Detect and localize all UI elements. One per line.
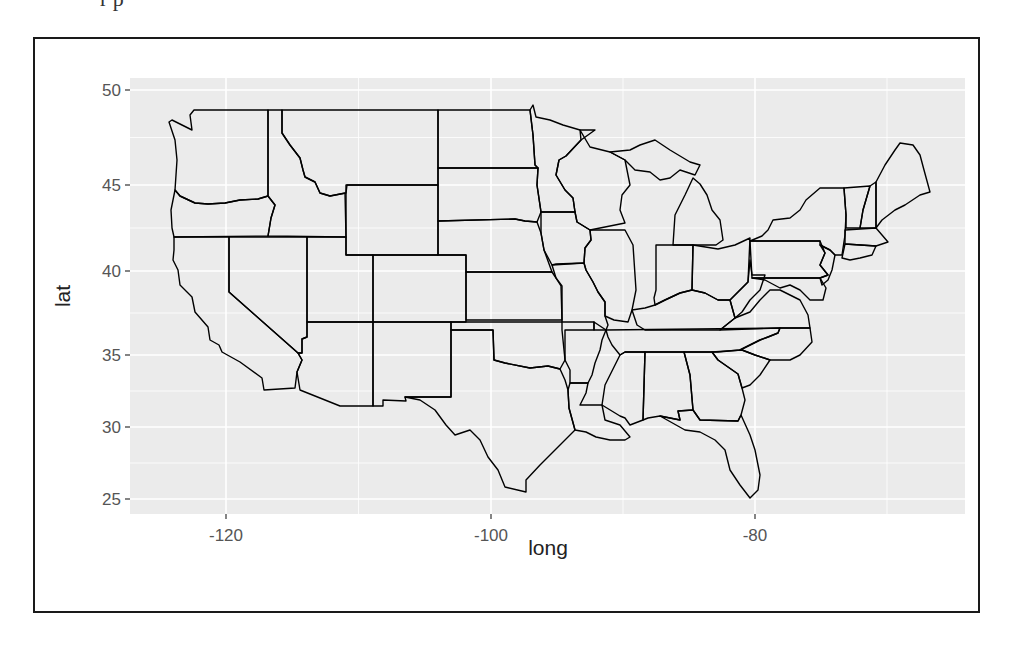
y-tick-label: 30 — [102, 418, 121, 437]
y-axis: 504540353025 — [102, 81, 130, 509]
map-plot: -120-100-80 504540353025 long lat — [0, 0, 1013, 649]
x-tick-label: -80 — [743, 526, 768, 545]
y-axis-title: lat — [51, 285, 74, 307]
x-axis-title: long — [528, 536, 568, 559]
y-tick-label: 35 — [102, 346, 121, 365]
x-tick-label: -100 — [474, 526, 508, 545]
plot-panel — [130, 78, 965, 514]
y-tick-label: 45 — [102, 176, 121, 195]
x-tick-label: -120 — [209, 526, 243, 545]
y-tick-label: 25 — [102, 490, 121, 509]
y-tick-label: 40 — [102, 262, 121, 281]
x-axis: -120-100-80 — [209, 514, 767, 545]
panel-background — [130, 78, 965, 514]
y-tick-label: 50 — [102, 81, 121, 100]
